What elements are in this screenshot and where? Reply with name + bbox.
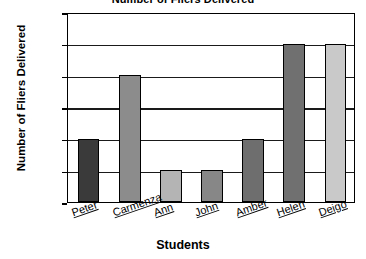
bar <box>242 139 264 202</box>
bar <box>160 170 182 202</box>
bar-chart: Number of Fliers Delivered Number of Fli… <box>0 0 366 259</box>
bar <box>325 44 347 202</box>
y-tick-mark <box>62 77 67 79</box>
y-tick-mark <box>62 172 67 174</box>
y-tick-mark <box>62 203 67 205</box>
bar <box>78 139 100 202</box>
bar <box>201 170 223 202</box>
x-axis-title: Students <box>0 238 366 252</box>
bar <box>283 44 305 202</box>
y-tick-mark <box>62 140 67 142</box>
y-tick-mark <box>62 45 67 47</box>
bar <box>119 75 141 202</box>
y-tick-mark <box>62 13 67 15</box>
chart-title: Number of Fliers Delivered <box>0 0 366 5</box>
y-tick-mark <box>62 108 67 110</box>
bars-container <box>68 14 354 202</box>
y-axis-title: Number of Fliers Delivered <box>15 8 27 188</box>
plot-area: 050100150200250300 <box>67 13 355 203</box>
